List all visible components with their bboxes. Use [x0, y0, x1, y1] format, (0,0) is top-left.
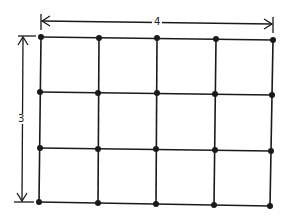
grid-diagram [0, 0, 287, 216]
grid-lines [39, 37, 273, 206]
height-label: 3 [16, 114, 26, 124]
width-label: 4 [152, 17, 162, 27]
